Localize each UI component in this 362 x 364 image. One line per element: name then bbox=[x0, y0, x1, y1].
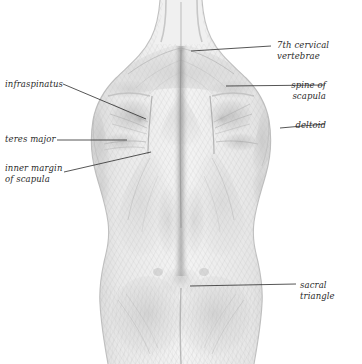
label-inner-margin-of-scapula: inner margin of scapula bbox=[5, 163, 63, 184]
label-spine-of-scapula: spine of scapula bbox=[236, 80, 326, 101]
label-seventh-cervical-vertebrae: 7th cervical vertebrae bbox=[277, 40, 362, 61]
label-deltoid: deltoid bbox=[236, 120, 326, 131]
anatomy-figure: 7th cervical vertebrae spine of scapula … bbox=[0, 0, 362, 364]
label-sacral-triangle: sacral triangle bbox=[300, 280, 362, 301]
label-teres-major: teres major bbox=[5, 134, 56, 145]
label-infraspinatus: infraspinatus bbox=[5, 79, 63, 90]
